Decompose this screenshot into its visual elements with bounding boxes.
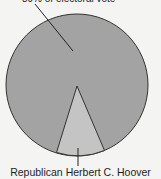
hoover-slice-label: Republican Herbert C. Hoover (0, 166, 161, 178)
pie-chart (0, 0, 161, 179)
majority-slice-label: 89% of electoral vote (22, 0, 115, 4)
